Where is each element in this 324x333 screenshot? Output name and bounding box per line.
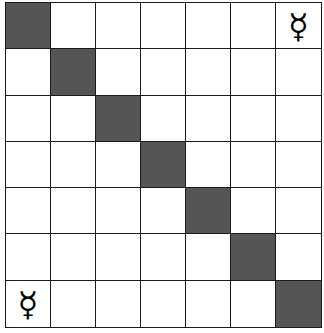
board-cell-r6-c3[interactable] bbox=[141, 281, 186, 327]
board-cell-r1-c1[interactable] bbox=[51, 49, 96, 95]
board-cell-r3-c6[interactable] bbox=[276, 142, 321, 188]
board-cell-r2-c2[interactable] bbox=[96, 96, 141, 142]
board-cell-r5-c6[interactable] bbox=[276, 234, 321, 280]
board-cell-r1-c0[interactable] bbox=[6, 49, 51, 95]
board-cell-r5-c4[interactable] bbox=[186, 234, 231, 280]
board-cell-r6-c5[interactable] bbox=[231, 281, 276, 327]
board-cell-r0-c2[interactable] bbox=[96, 3, 141, 49]
board-cell-r4-c6[interactable] bbox=[276, 188, 321, 234]
board-cell-r3-c0[interactable] bbox=[6, 142, 51, 188]
board-cell-r4-c5[interactable] bbox=[231, 188, 276, 234]
board-cell-r0-c3[interactable] bbox=[141, 3, 186, 49]
board-cell-r0-c5[interactable] bbox=[231, 3, 276, 49]
mercury-symbol-icon[interactable]: ☿ bbox=[288, 9, 309, 43]
board-cell-r0-c6[interactable]: ☿ bbox=[276, 3, 321, 49]
mercury-symbol-icon[interactable]: ☿ bbox=[18, 287, 39, 321]
board-cell-r3-c1[interactable] bbox=[51, 142, 96, 188]
board-cell-r4-c4[interactable] bbox=[186, 188, 231, 234]
board-cell-r6-c2[interactable] bbox=[96, 281, 141, 327]
board-cell-r6-c1[interactable] bbox=[51, 281, 96, 327]
board-cell-r4-c1[interactable] bbox=[51, 188, 96, 234]
board-cell-r0-c1[interactable] bbox=[51, 3, 96, 49]
board-cell-r4-c3[interactable] bbox=[141, 188, 186, 234]
board-cell-r1-c2[interactable] bbox=[96, 49, 141, 95]
board-cell-r5-c2[interactable] bbox=[96, 234, 141, 280]
board-cell-r6-c4[interactable] bbox=[186, 281, 231, 327]
board-cell-r0-c0[interactable] bbox=[6, 3, 51, 49]
board-cell-r1-c6[interactable] bbox=[276, 49, 321, 95]
board-cell-r5-c3[interactable] bbox=[141, 234, 186, 280]
board-cell-r1-c5[interactable] bbox=[231, 49, 276, 95]
board-cell-r2-c1[interactable] bbox=[51, 96, 96, 142]
board-cell-r3-c4[interactable] bbox=[186, 142, 231, 188]
board-cell-r2-c0[interactable] bbox=[6, 96, 51, 142]
board-cell-r1-c3[interactable] bbox=[141, 49, 186, 95]
board-cell-r5-c0[interactable] bbox=[6, 234, 51, 280]
board-cell-r2-c5[interactable] bbox=[231, 96, 276, 142]
board-cell-r0-c4[interactable] bbox=[186, 3, 231, 49]
board-cell-r3-c2[interactable] bbox=[96, 142, 141, 188]
board-cell-r5-c5[interactable] bbox=[231, 234, 276, 280]
board-cell-r3-c5[interactable] bbox=[231, 142, 276, 188]
board-cell-r4-c0[interactable] bbox=[6, 188, 51, 234]
board-cell-r2-c4[interactable] bbox=[186, 96, 231, 142]
board-cell-r2-c6[interactable] bbox=[276, 96, 321, 142]
board-cell-r5-c1[interactable] bbox=[51, 234, 96, 280]
board-cell-r6-c6[interactable] bbox=[276, 281, 321, 327]
board-cell-r3-c3[interactable] bbox=[141, 142, 186, 188]
board-cell-r6-c0[interactable]: ☿ bbox=[6, 281, 51, 327]
game-board: ☿☿ bbox=[5, 2, 322, 328]
board-cell-r2-c3[interactable] bbox=[141, 96, 186, 142]
board-cell-r1-c4[interactable] bbox=[186, 49, 231, 95]
board-cell-r4-c2[interactable] bbox=[96, 188, 141, 234]
